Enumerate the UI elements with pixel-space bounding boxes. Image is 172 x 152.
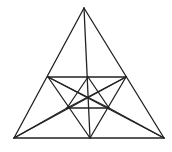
geometric-triangle-figure: [0, 0, 172, 152]
segment-A-BR: [84, 8, 164, 138]
segment-A-BM: [84, 8, 90, 138]
segment-BR-R: [109, 108, 164, 138]
figure-segments: [14, 8, 164, 138]
